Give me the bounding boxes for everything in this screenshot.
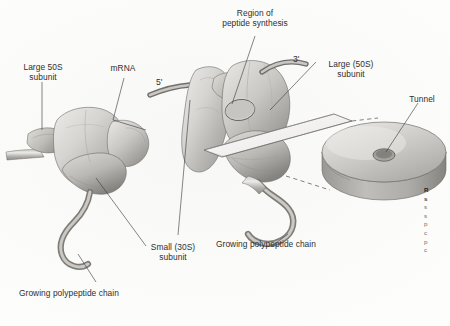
label-large-50s-subunit-right-line1: Large (50S) bbox=[316, 59, 386, 69]
figure-caption-clipped: R s s s p c p c bbox=[424, 186, 450, 255]
label-large-50s-subunit-right-line2: subunit bbox=[316, 69, 386, 79]
caption-line-8: c bbox=[424, 246, 450, 255]
label-large-50s-subunit-left-line2: subunit bbox=[10, 72, 76, 82]
label-large-50s-subunit-right: Large (50S) subunit bbox=[316, 59, 386, 79]
label-small-30s-subunit-line2: subunit bbox=[140, 252, 206, 262]
label-three-prime: 3' bbox=[293, 54, 299, 64]
label-five-prime: 5' bbox=[156, 77, 162, 87]
caption-line-1: R bbox=[424, 186, 450, 195]
caption-line-2: s bbox=[424, 195, 450, 204]
caption-line-5: p bbox=[424, 220, 450, 229]
label-large-50s-subunit-left: Large 50S subunit bbox=[10, 62, 76, 82]
left-ribosome-group bbox=[6, 107, 149, 266]
label-growing-polypeptide-chain-left: Growing polypeptide chain bbox=[19, 288, 119, 298]
label-small-30s-subunit-line1: Small (30S) bbox=[140, 242, 206, 252]
caption-line-7: p bbox=[424, 238, 450, 247]
label-region-of-peptide-synthesis: Region of peptide synthesis bbox=[204, 8, 306, 28]
label-small-30s-subunit: Small (30S) subunit bbox=[140, 242, 206, 262]
label-growing-polypeptide-chain-right: Growing polypeptide chain bbox=[216, 239, 316, 249]
label-mrna: mRNA bbox=[101, 63, 145, 73]
label-region-of-peptide-synthesis-line1: Region of bbox=[204, 8, 306, 18]
caption-line-6: c bbox=[424, 229, 450, 238]
ribosome-figure: Large 50S subunit mRNA 5' 3' Region of p… bbox=[0, 0, 450, 326]
label-region-of-peptide-synthesis-line2: peptide synthesis bbox=[204, 18, 306, 28]
caption-line-3: s bbox=[424, 203, 450, 212]
label-large-50s-subunit-left-line1: Large 50S bbox=[10, 62, 76, 72]
label-tunnel: Tunnel bbox=[398, 94, 446, 104]
caption-line-4: s bbox=[424, 212, 450, 221]
ribosome-artwork bbox=[0, 0, 450, 326]
